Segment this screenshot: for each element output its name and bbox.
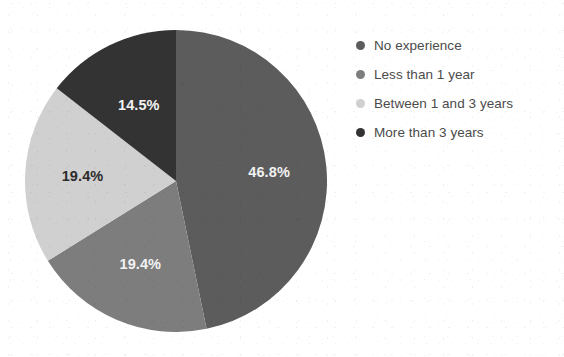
legend-swatch-icon <box>356 70 365 79</box>
pie-slice-value-label: 19.4% <box>119 256 161 272</box>
legend-item-less-than-1-year[interactable]: Less than 1 year <box>356 60 556 89</box>
pie-slice-value-label: 14.5% <box>118 97 160 113</box>
pie-svg: 46.8%19.4%19.4%14.5% <box>25 30 327 332</box>
legend-item-label: Less than 1 year <box>374 67 475 82</box>
legend-swatch-icon <box>356 41 365 50</box>
legend-item-label: More than 3 years <box>374 125 484 140</box>
legend: No experience Less than 1 year Between 1… <box>356 31 556 147</box>
pie-slice-value-label: 46.8% <box>248 164 290 180</box>
pie-slice-value-label: 19.4% <box>62 168 104 184</box>
pie-chart: 46.8%19.4%19.4%14.5% No experience Less … <box>0 0 564 357</box>
legend-item-between-1-and-3-years[interactable]: Between 1 and 3 years <box>356 89 556 118</box>
legend-swatch-icon <box>356 99 365 108</box>
legend-swatch-icon <box>356 128 365 137</box>
pie-graphic: 46.8%19.4%19.4%14.5% <box>25 30 327 332</box>
legend-item-label: Between 1 and 3 years <box>374 96 513 111</box>
legend-item-no-experience[interactable]: No experience <box>356 31 556 60</box>
legend-item-more-than-3-years[interactable]: More than 3 years <box>356 118 556 147</box>
legend-item-label: No experience <box>374 38 462 53</box>
